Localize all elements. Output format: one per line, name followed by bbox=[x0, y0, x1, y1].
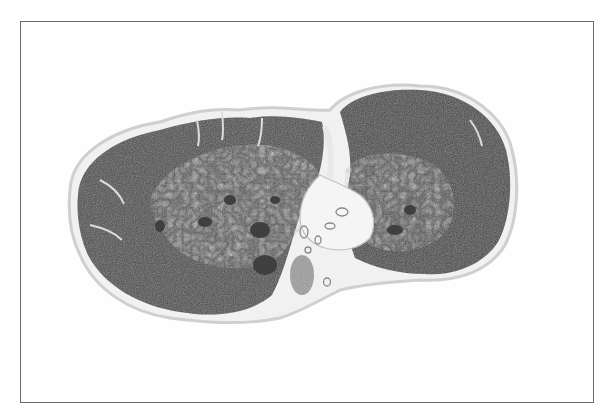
tissue-section-image bbox=[0, 0, 606, 420]
oval-structure bbox=[290, 255, 314, 295]
